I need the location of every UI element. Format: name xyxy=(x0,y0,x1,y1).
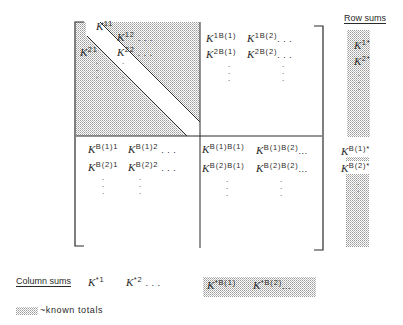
entry-base: K xyxy=(128,143,136,155)
entry-base: K xyxy=(88,276,96,288)
entry-k22: K22 . . . xyxy=(117,45,153,58)
vdots-bl-col2: ··· xyxy=(137,176,143,197)
entry-base: K xyxy=(253,279,261,291)
entry-base: K xyxy=(256,144,264,156)
entry-sup: 12 xyxy=(125,30,135,39)
entry-sup: 22 xyxy=(125,45,135,54)
entry-sup: B(1)B(2) xyxy=(264,143,299,152)
vdots-br-col2: ··· xyxy=(278,178,284,199)
entry-ellipsis: . . . xyxy=(277,34,292,44)
vdots-tr-col1: ··· xyxy=(226,63,232,84)
entry-sup: B(2)2 xyxy=(136,160,158,169)
entry-base: K xyxy=(96,20,104,32)
entry-base: K xyxy=(206,32,214,44)
entry-sup: B(1)B(1) xyxy=(210,142,245,151)
entry-base: K xyxy=(206,48,214,60)
entry-kb1-1: KB(1)1 xyxy=(88,142,118,155)
entry-k12: K12 . . . xyxy=(117,30,153,43)
vdots-row-sums-lower: ··· xyxy=(355,181,361,202)
entry-base: K xyxy=(128,161,136,173)
entry-sup: 1B(2) xyxy=(255,31,277,40)
entry-ellipsis: ... xyxy=(299,146,308,156)
entry-sup: B(2)B(1) xyxy=(210,161,245,170)
entry-sup: 2B(1) xyxy=(214,47,236,56)
entry-base: K xyxy=(88,143,96,155)
entry-ellipsis: . . . xyxy=(161,145,176,155)
entry-sup: *B(2) xyxy=(261,278,282,287)
entry-ellipsis: . . . xyxy=(277,50,292,60)
vdots-tr-col2: ··· xyxy=(280,63,286,84)
entry-base: K xyxy=(207,279,215,291)
entry-base: K xyxy=(117,46,125,58)
entry-sup: B(2)* xyxy=(349,161,370,170)
entry-k21: K21 xyxy=(80,45,98,58)
entry-sup: B(1)1 xyxy=(96,142,118,151)
row-sum-k1: K1* xyxy=(354,38,371,51)
entry-sup: 21 xyxy=(88,45,98,54)
entry-sup: 2* xyxy=(362,54,371,63)
entry-sup: 1B(1) xyxy=(214,31,236,40)
entry-base: K xyxy=(354,55,362,67)
legend-label: ~known totals xyxy=(40,305,103,315)
entry-sup: *2 xyxy=(134,275,143,284)
entry-base: K xyxy=(80,46,88,58)
right-bracket xyxy=(314,26,323,250)
entry-ellipsis: . . . xyxy=(138,48,153,58)
entry-k11: K11 xyxy=(96,19,113,32)
entry-k2b1: K2B(1) xyxy=(206,47,236,60)
column-sum-k1: K*1 xyxy=(88,275,105,288)
entry-sup: B(1)* xyxy=(349,144,370,153)
entry-kb2-2: KB(2)2 . . . xyxy=(128,160,176,173)
entry-ellipsis: ... xyxy=(299,164,308,174)
column-sum-k2: K*2 . . . xyxy=(126,275,161,288)
entry-kb2-1: KB(2)1 xyxy=(88,160,118,173)
entry-base: K xyxy=(126,276,134,288)
column-sum-kb1: K*B(1) xyxy=(207,278,236,291)
row-sum-k2: K2* xyxy=(354,54,371,67)
entry-base: K xyxy=(202,143,210,155)
entry-sup: B(1)2 xyxy=(136,142,158,151)
vdots-bl-col1: ··· xyxy=(100,176,106,197)
entry-kb2b2: KB(2)B(2)... xyxy=(256,161,308,174)
entry-k2b2: K2B(2). . . xyxy=(247,47,292,60)
entry-sup: 11 xyxy=(104,19,113,28)
row-sum-kb2: KB(2)* xyxy=(340,161,371,174)
entry-k1b2: K1B(2). . . xyxy=(247,31,292,44)
entry-ellipsis: ... xyxy=(282,281,291,291)
entry-sup: B(2)B(2) xyxy=(264,161,299,170)
entry-ellipsis: . . . xyxy=(146,278,161,288)
legend-swatch xyxy=(16,307,38,315)
row-sums-title: Row sums xyxy=(344,13,386,23)
column-sums-title: Column sums xyxy=(16,276,71,286)
entry-base: K xyxy=(341,145,349,157)
entry-ellipsis: . . . xyxy=(138,33,153,43)
entry-sup: *1 xyxy=(96,275,105,284)
entry-base: K xyxy=(247,32,255,44)
entry-sup: *B(1) xyxy=(215,278,236,287)
entry-sup: 2B(2) xyxy=(255,47,277,56)
entry-kb1b1: KB(1)B(1) xyxy=(202,142,245,155)
entry-base: K xyxy=(341,162,349,174)
entry-base: K xyxy=(247,48,255,60)
vdots-row-sums-upper: ··· xyxy=(356,72,362,93)
entry-kb1b2: KB(1)B(2)... xyxy=(256,143,308,156)
vdots-br-col1: ··· xyxy=(224,178,230,199)
entry-sup: B(2)1 xyxy=(96,160,118,169)
vdots-tl-col1: ··· xyxy=(94,60,100,81)
entry-k1b1: K1B(1) xyxy=(206,31,236,44)
entry-base: K xyxy=(354,39,362,51)
entry-base: K xyxy=(202,162,210,174)
vdots-tl-col2: ·· xyxy=(120,60,126,81)
row-sum-kb1: KB(1)* xyxy=(340,144,371,157)
entry-kb2b1: KB(2)B(1) xyxy=(202,161,245,174)
column-sum-kb2: K*B(2)... xyxy=(253,278,291,291)
entry-sup: 1* xyxy=(362,38,371,47)
entry-base: K xyxy=(88,161,96,173)
entry-ellipsis: . . . xyxy=(161,163,176,173)
entry-kb1-2: KB(1)2 . . . xyxy=(128,142,176,155)
entry-base: K xyxy=(256,162,264,174)
entry-base: K xyxy=(117,31,125,43)
